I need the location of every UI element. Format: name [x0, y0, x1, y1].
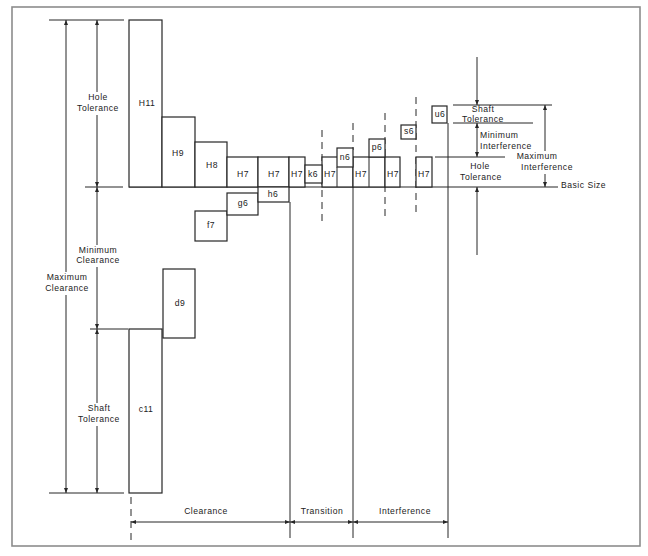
hole-tolerance-label-line1: Hole: [88, 92, 108, 102]
label-H9: H9: [172, 148, 184, 158]
label-H11: H11: [139, 98, 156, 108]
maximum-interference-label-line2: Interference: [521, 162, 573, 172]
right-hole-tolerance-label-line1: Hole: [470, 161, 490, 171]
fit-zone-labels: Clearance Transition Interference: [184, 506, 431, 516]
basic-size-label: Basic Size: [561, 180, 606, 190]
label-c11: c11: [139, 404, 154, 414]
label-u6: u6: [435, 109, 446, 119]
label-g6: g6: [238, 198, 249, 208]
maximum-clearance-label-line1: Maximum: [47, 272, 88, 282]
right-hole-tolerance-label-line2: Tolerance: [460, 172, 502, 182]
label-H7-g6: H7: [237, 169, 249, 179]
label-H7-u6: H7: [418, 169, 430, 179]
label-H7-s6: H7: [387, 169, 399, 179]
label-H8: H8: [206, 160, 218, 170]
label-f7: f7: [207, 220, 215, 230]
label-H7-p6: H7: [355, 169, 367, 179]
right-shaft-tolerance-label-line1: Shaft: [472, 104, 495, 114]
label-h6: h6: [268, 189, 279, 199]
minimum-interference-label-line2: Interference: [480, 141, 532, 151]
maximum-interference-label-line1: Maximum: [517, 151, 558, 161]
label-d9: d9: [175, 298, 186, 308]
minimum-interference-label-line1: Minimum: [480, 130, 518, 140]
maximum-clearance-label-line2: Clearance: [45, 283, 89, 293]
minimum-clearance-label-line2: Clearance: [76, 255, 120, 265]
right-shaft-tolerance-label-line2: Tolerance: [462, 114, 504, 124]
shaft-tolerance-label-line2: Tolerance: [78, 414, 120, 424]
fits-tolerance-diagram: H11 H9 H8 H7 H7 H7 H7 H7 H7 H7 c11 d9 f7…: [0, 0, 648, 556]
hole-tolerance-label-line2: Tolerance: [77, 103, 119, 113]
figure-frame: [12, 7, 640, 546]
label-H7-h6: H7: [268, 169, 280, 179]
label-H7-k6: H7: [291, 169, 303, 179]
label-s6: s6: [404, 126, 414, 136]
label-n6: n6: [340, 152, 351, 162]
label-k6: k6: [308, 169, 318, 179]
label-H7-n6: H7: [324, 169, 336, 179]
interference-zone-label: Interference: [379, 506, 431, 516]
shaft-tolerance-label-line1: Shaft: [88, 403, 111, 413]
label-p6: p6: [372, 142, 383, 152]
minimum-clearance-label-line1: Minimum: [79, 245, 117, 255]
transition-zone-label: Transition: [301, 506, 343, 516]
clearance-zone-label: Clearance: [184, 506, 228, 516]
